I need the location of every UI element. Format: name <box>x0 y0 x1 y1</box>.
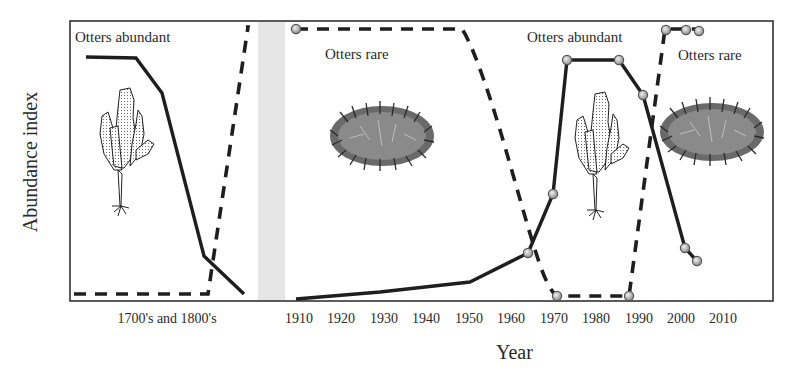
urchin-line-historical <box>74 27 248 294</box>
x-tick-1970: 1970 <box>540 312 568 326</box>
sea-urchin-illustration <box>330 101 434 171</box>
x-tick-2000: 2000 <box>667 312 695 326</box>
axis-break-band <box>258 22 285 301</box>
urchin-line-modern <box>296 29 698 296</box>
annotation-otters-rare-2: Otters rare <box>678 48 742 63</box>
annotation-otters-abundant-modern: Otters abundant <box>527 30 622 45</box>
plot-frame <box>70 21 773 301</box>
x-axis-title: Year <box>496 342 533 362</box>
annotation-otters-rare-1: Otters rare <box>325 47 389 62</box>
x-tick-1990: 1990 <box>625 312 653 326</box>
x-tick-1940: 1940 <box>412 312 440 326</box>
urchin-markers <box>291 24 703 300</box>
y-axis-title: Abundance index <box>20 92 40 233</box>
x-tick-1950: 1950 <box>455 312 483 326</box>
x-tick-1910: 1910 <box>285 312 313 326</box>
annotation-otters-abundant-historical: Otters abundant <box>75 30 170 45</box>
x-tick-1930: 1930 <box>370 312 398 326</box>
x-tick-1920: 1920 <box>327 312 355 326</box>
kelp-illustration <box>575 92 629 220</box>
kelp-line-historical <box>86 57 244 294</box>
kelp-illustration <box>100 88 154 216</box>
x-tick-2010: 2010 <box>709 312 737 326</box>
kelp-line-modern <box>296 60 697 299</box>
sea-urchin-illustration <box>660 97 764 166</box>
x-tick-1980: 1980 <box>582 312 610 326</box>
x-tick-1960: 1960 <box>497 312 525 326</box>
x-tick-historical: 1700's and 1800's <box>117 312 216 326</box>
